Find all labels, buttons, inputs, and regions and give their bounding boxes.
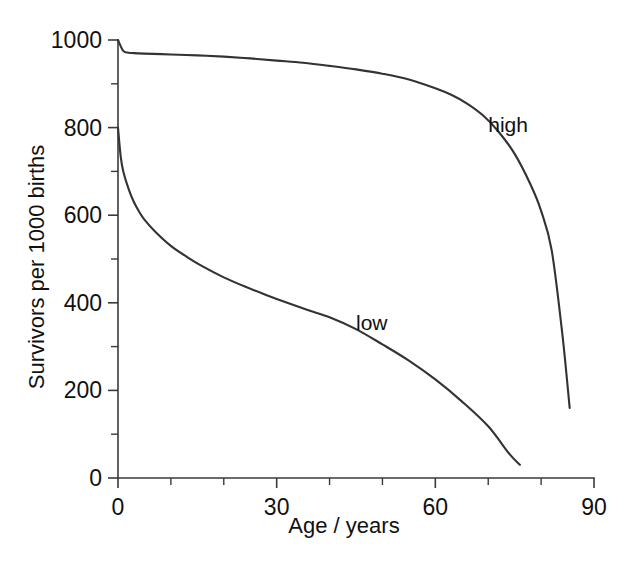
- x-tick-label: 30: [264, 494, 290, 520]
- y-tick-label: 0: [89, 465, 102, 491]
- survivorship-chart-plot: 020040060080010000306090 highlow Age / y…: [0, 0, 635, 568]
- y-tick-label: 600: [64, 202, 102, 228]
- y-tick-label: 200: [64, 377, 102, 403]
- x-tick-label: 90: [581, 494, 607, 520]
- series-curve-low: [118, 128, 520, 465]
- chart-tick-marks: [108, 40, 594, 488]
- y-tick-label: 1000: [51, 27, 102, 53]
- series-label-high: high: [488, 113, 528, 136]
- survivorship-chart-figure: 020040060080010000306090 highlow Age / y…: [0, 0, 635, 568]
- y-axis-title: Survivors per 1000 births: [24, 145, 49, 390]
- chart-series-labels: highlow: [356, 113, 528, 333]
- series-label-low: low: [356, 311, 388, 334]
- chart-tick-labels: 020040060080010000306090: [51, 27, 607, 520]
- chart-series-curves: [118, 40, 570, 465]
- x-tick-label: 0: [112, 494, 125, 520]
- x-axis-title: Age / years: [288, 513, 399, 538]
- y-tick-label: 800: [64, 115, 102, 141]
- y-tick-label: 400: [64, 290, 102, 316]
- series-curve-high: [118, 40, 570, 408]
- x-tick-label: 60: [423, 494, 449, 520]
